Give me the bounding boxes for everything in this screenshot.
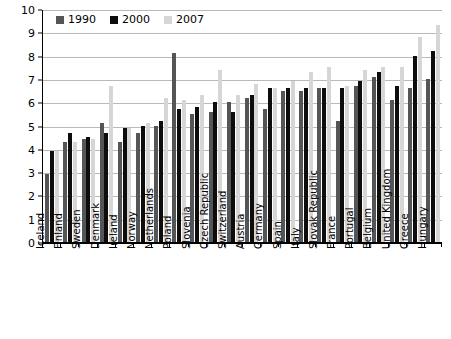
- x-tick-label: Belgium: [363, 208, 373, 249]
- x-axis-item: Sweden: [78, 243, 96, 339]
- x-axis-item: Germany: [260, 243, 278, 339]
- y-tick-label: 3: [28, 168, 35, 179]
- y-tick-label: 4: [28, 144, 35, 155]
- x-axis-item: United Kingdom: [388, 243, 406, 339]
- y-tick-label: 5: [28, 121, 35, 132]
- chart-legend: 199020002007: [56, 14, 204, 25]
- y-tick-label: 10: [21, 5, 35, 16]
- y-tick-label: 2: [28, 191, 35, 202]
- bar: [268, 88, 272, 242]
- bar: [291, 81, 295, 242]
- y-tick-label: 8: [28, 51, 35, 62]
- x-tick-label: Czech Republic: [200, 173, 210, 249]
- x-axis-item: Slovak Republic: [315, 243, 333, 339]
- x-tick-label: Spain: [273, 221, 283, 249]
- bar: [431, 51, 435, 242]
- x-tick-label: Ireland: [109, 214, 119, 249]
- bar-group: [61, 10, 79, 242]
- x-tick-label: United Kingdom: [382, 169, 392, 249]
- y-tick-label: 7: [28, 74, 35, 85]
- x-tick-label: Italy: [291, 227, 301, 249]
- x-tick-label: Slovak Republic: [309, 170, 319, 249]
- x-tick-mark: [441, 243, 442, 247]
- x-axis-item: Finland: [60, 243, 78, 339]
- bar: [299, 91, 303, 242]
- x-tick-label: Portugal: [345, 208, 355, 249]
- x-axis-item: Austria: [242, 243, 260, 339]
- legend-label: 2007: [176, 14, 204, 25]
- legend-entry: 2007: [164, 14, 204, 25]
- x-tick-label: Norway: [127, 211, 137, 249]
- x-axis-item: Poland: [169, 243, 187, 339]
- bar: [281, 91, 285, 242]
- x-axis-item: Portugal: [351, 243, 369, 339]
- legend-entry: 2000: [110, 14, 150, 25]
- x-axis-item: Switzerland: [224, 243, 242, 339]
- x-axis-item: Spain: [278, 243, 296, 339]
- x-axis: IcelandFinlandSwedenDenmarkIrelandNorway…: [42, 243, 442, 339]
- legend-entry: 1990: [56, 14, 96, 25]
- x-tick-label: France: [327, 216, 337, 249]
- x-axis-item: Italy: [297, 243, 315, 339]
- y-tick-label: 9: [28, 28, 35, 39]
- bar: [172, 53, 176, 242]
- x-tick-label: Poland: [163, 216, 173, 249]
- bar: [63, 142, 67, 242]
- legend-label: 2000: [122, 14, 150, 25]
- x-axis-item: Denmark: [97, 243, 115, 339]
- bar-group: [279, 10, 297, 242]
- bar-group: [116, 10, 134, 242]
- y-tick-label: 1: [28, 214, 35, 225]
- x-axis-item: Czech Republic: [206, 243, 224, 339]
- x-axis-item: Netherlands: [151, 243, 169, 339]
- bar-group: [43, 10, 61, 242]
- x-axis-item: Ireland: [115, 243, 133, 339]
- x-tick-label: Iceland: [36, 213, 46, 249]
- x-axis-item: Iceland: [42, 243, 60, 339]
- x-tick-label: Sweden: [72, 209, 82, 249]
- x-tick-label: Hungary: [418, 206, 428, 249]
- x-tick-label: Netherlands: [145, 188, 155, 249]
- x-axis-item: Slovenia: [188, 243, 206, 339]
- x-axis-item: Greece: [406, 243, 424, 339]
- legend-label: 1990: [68, 14, 96, 25]
- bar: [286, 88, 290, 242]
- bar: [436, 25, 440, 242]
- bar: [273, 88, 277, 242]
- x-tick-label: Slovenia: [182, 206, 192, 249]
- y-axis: 012345678910: [0, 0, 42, 243]
- x-axis-item: Norway: [133, 243, 151, 339]
- bar: [377, 72, 381, 242]
- bar: [82, 139, 86, 242]
- x-tick-label: Germany: [254, 203, 264, 249]
- x-tick-label: Switzerland: [218, 191, 228, 249]
- x-axis-item: Hungary: [424, 243, 442, 339]
- x-tick-label: Greece: [400, 213, 410, 249]
- x-tick-label: Denmark: [91, 203, 101, 249]
- legend-swatch-icon: [56, 16, 64, 24]
- x-axis-item: France: [333, 243, 351, 339]
- x-axis-item: Belgium: [369, 243, 387, 339]
- y-tick-label: 0: [28, 238, 35, 249]
- x-tick-label: Austria: [236, 214, 246, 249]
- grouped-bar-chart: 012345678910 199020002007 IcelandFinland…: [0, 0, 451, 339]
- legend-swatch-icon: [110, 16, 118, 24]
- x-tick-label: Finland: [54, 213, 64, 249]
- y-tick-label: 6: [28, 98, 35, 109]
- legend-swatch-icon: [164, 16, 172, 24]
